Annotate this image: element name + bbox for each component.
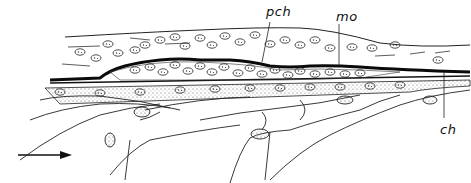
direction-arrow-icon (18, 151, 72, 159)
lower-cell-layer (20, 90, 470, 183)
label-mo: mo (336, 9, 358, 24)
stippled-layer (45, 80, 470, 104)
upper-tissue-layer (62, 28, 470, 66)
histology-figure (0, 0, 471, 183)
label-ch: ch (440, 122, 456, 137)
label-pch: pch (266, 4, 291, 19)
